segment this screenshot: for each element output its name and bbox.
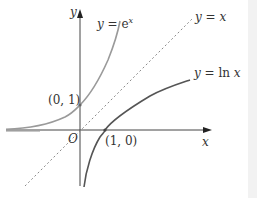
identity-label: y = x [195, 11, 226, 23]
y-axis-arrow-icon [77, 9, 83, 18]
point-1-0 [103, 128, 106, 131]
ln-curve [84, 80, 190, 187]
y-axis-label: y [70, 6, 77, 18]
exp-curve [6, 21, 120, 129]
x-axis-arrow-icon [203, 127, 212, 133]
point-label-0-1: (0, 1) [48, 94, 80, 106]
exp-curve-label: y y = e= ex [97, 17, 133, 30]
point-label-1-0: (1, 0) [105, 135, 137, 147]
x-axis-label: x [202, 136, 209, 148]
ln-label: y = ln x [194, 67, 241, 79]
origin-label: O [68, 133, 78, 145]
